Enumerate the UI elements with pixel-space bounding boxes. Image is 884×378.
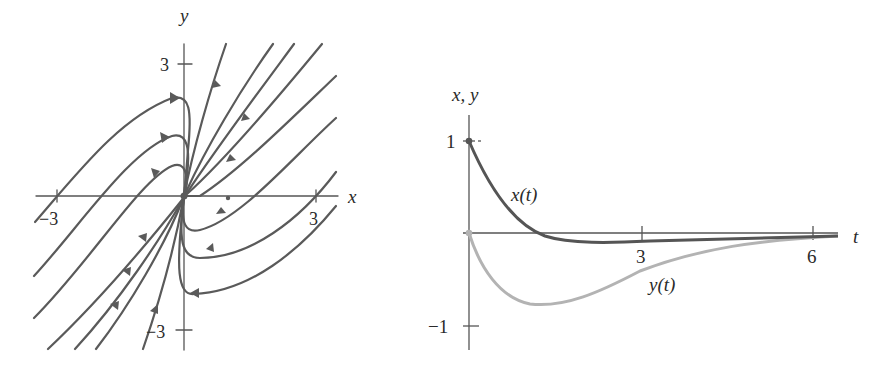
time-series-plot — [463, 115, 838, 350]
x-tick-neg3: −3 — [39, 209, 58, 229]
y-tick-neg3: −3 — [146, 322, 165, 342]
t-tick-6: 6 — [807, 246, 817, 267]
vertical-axis-label: x, y — [451, 84, 479, 105]
x-tick-3: 3 — [309, 209, 318, 229]
x-curve-label: x(t) — [510, 184, 537, 206]
t-axis-label: t — [853, 226, 859, 247]
y-curve-label: y(t) — [647, 274, 675, 296]
y-tick-3: 3 — [160, 55, 169, 75]
y-axis-label: y — [178, 5, 189, 26]
y-tick-neg1: −1 — [428, 316, 448, 337]
y-tick-1: 1 — [446, 131, 456, 152]
figure: y x −3 3 3 −3 x, y t 3 6 1 −1 x(t) y(t) — [0, 0, 884, 378]
x-axis-label: x — [347, 186, 357, 207]
t-tick-3: 3 — [636, 246, 646, 267]
